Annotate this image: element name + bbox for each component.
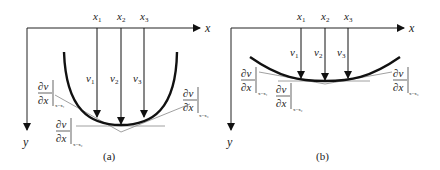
slope-label-x2: ∂v ∂x x=x₂ xyxy=(276,83,303,112)
svg-text:x=x₂: x=x₂ xyxy=(73,142,83,147)
svg-text:∂v: ∂v xyxy=(241,67,251,79)
y-axis-label: y xyxy=(22,135,29,149)
slope-label-x3: ∂v ∂x x=x₃ xyxy=(183,87,209,118)
deflection-label-v3: v3 xyxy=(133,72,142,86)
svg-text:x2: x2 xyxy=(320,10,330,24)
svg-text:x=x₁: x=x₁ xyxy=(258,91,268,96)
svg-text:x1: x1 xyxy=(296,10,306,24)
panel-a: x y x1 x2 x3 v1 v2 v3 ∂v xyxy=(22,10,211,163)
svg-text:∂x: ∂x xyxy=(38,94,48,106)
caption-a: (a) xyxy=(103,150,116,163)
deflection-label-v1: v1 xyxy=(86,72,95,86)
deflection-label-v1: v1 xyxy=(290,46,299,60)
deflection-diagram: x y x1 x2 x3 v1 v2 v3 ∂v xyxy=(0,0,440,170)
x-axis-label: x xyxy=(204,21,211,35)
svg-text:∂x: ∂x xyxy=(393,81,403,93)
svg-text:∂x: ∂x xyxy=(183,101,193,113)
svg-text:∂v: ∂v xyxy=(56,118,66,130)
position-labels: x1 x2 x3 xyxy=(296,10,353,24)
svg-text:∂x: ∂x xyxy=(276,97,286,109)
slope-label-x1: ∂v ∂x x=x₁ xyxy=(38,80,65,108)
svg-text:∂v: ∂v xyxy=(38,80,48,92)
deflection-label-v2: v2 xyxy=(110,72,119,86)
y-axis-label: y xyxy=(226,135,233,149)
svg-text:x=x₂: x=x₂ xyxy=(293,107,303,112)
svg-text:x=x₃: x=x₃ xyxy=(199,113,209,118)
deflection-label-v3: v3 xyxy=(337,46,346,60)
svg-text:∂v: ∂v xyxy=(183,87,193,99)
svg-text:∂x: ∂x xyxy=(241,81,251,93)
svg-text:∂v: ∂v xyxy=(276,83,286,95)
svg-text:x1: x1 xyxy=(92,10,102,24)
slope-label-x1: ∂v ∂x x=x₁ xyxy=(241,67,268,96)
svg-text:x3: x3 xyxy=(139,10,149,24)
slope-label-x3: ∂v ∂x x=x₃ xyxy=(393,67,419,96)
svg-text:∂v: ∂v xyxy=(393,67,403,79)
svg-text:∂x: ∂x xyxy=(56,132,66,144)
panel-b: x y x1 x2 x3 v1 v2 v3 ∂v ∂x x=x₁ xyxy=(226,10,419,163)
svg-text:x3: x3 xyxy=(343,10,353,24)
position-labels: x1 x2 x3 xyxy=(92,10,149,24)
x-axis-label: x xyxy=(408,21,415,35)
caption-b: (b) xyxy=(316,150,329,163)
deflection-label-v2: v2 xyxy=(314,46,323,60)
svg-text:x=x₁: x=x₁ xyxy=(55,103,65,108)
svg-text:x=x₃: x=x₃ xyxy=(409,91,419,96)
svg-text:x2: x2 xyxy=(116,10,126,24)
slope-label-x2: ∂v ∂x x=x₂ xyxy=(56,118,83,147)
